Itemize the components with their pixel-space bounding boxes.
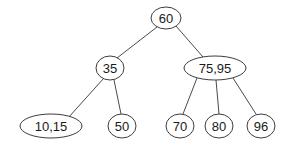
tree-node-label-n1015: 10,15 (35, 119, 68, 134)
tree-node-n70: 70 (166, 114, 194, 138)
node-layer: 603575,9510,1550708096 (20, 7, 275, 138)
tree-node-label-root: 60 (159, 11, 173, 26)
tree-edge-n7595-to-n70 (183, 78, 197, 114)
tree-node-label-n35: 35 (103, 61, 117, 76)
tree-diagram-canvas: 603575,9510,1550708096 (0, 0, 288, 146)
tree-node-n50: 50 (108, 114, 136, 138)
tree-diagram: 603575,9510,1550708096 (0, 0, 288, 146)
tree-node-n96: 96 (247, 114, 275, 138)
tree-node-label-n96: 96 (254, 119, 268, 134)
tree-node-label-n50: 50 (115, 119, 129, 134)
tree-node-label-n80: 80 (212, 119, 226, 134)
tree-node-label-n70: 70 (173, 119, 187, 134)
tree-edge-root-to-n35 (117, 27, 157, 58)
tree-edge-n7595-to-n96 (233, 78, 256, 114)
tree-node-n80: 80 (205, 114, 233, 138)
tree-node-n1015: 10,15 (20, 114, 82, 138)
tree-node-n7595: 75,95 (184, 56, 246, 80)
tree-node-n35: 35 (96, 56, 124, 80)
tree-node-root: 60 (151, 7, 181, 29)
tree-edge-n35-to-n50 (114, 80, 121, 114)
tree-edge-n7595-to-n80 (216, 80, 219, 114)
tree-edge-root-to-n7595 (176, 26, 203, 57)
tree-node-label-n7595: 75,95 (199, 61, 232, 76)
tree-edge-n35-to-n1015 (68, 78, 104, 118)
